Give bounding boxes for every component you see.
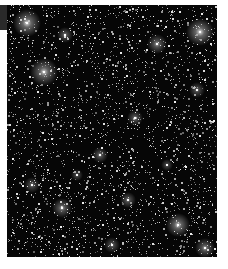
star-field-canvas [7,5,217,257]
star-field-image [7,5,217,257]
